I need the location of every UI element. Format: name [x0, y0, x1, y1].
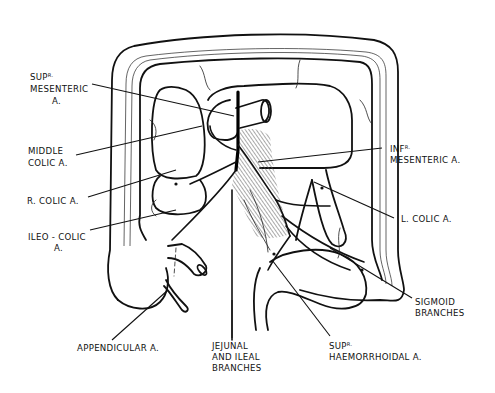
leader-sup-haemorrhoidal — [272, 260, 330, 336]
label-sigmoid: SIGMOID — [415, 297, 455, 307]
label-appendicular: APPENDICULAR A. — [77, 343, 159, 353]
leader-middle-colic — [76, 126, 202, 155]
label-sup-mesenteric: SUPR. — [30, 72, 54, 82]
colon-arterial-supply-diagram: SUPR. MESENTERIC A. MIDDLE COLIC A. R. C… — [0, 0, 495, 393]
label-l-colic: L. COLIC A. — [401, 214, 452, 224]
label-jejunal: JEJUNAL — [211, 341, 248, 351]
label-ileo-colic: ILEO - COLIC — [28, 232, 86, 242]
label-sigmoid-line2: BRANCHES — [415, 308, 465, 318]
labels: SUPR. MESENTERIC A. MIDDLE COLIC A. R. C… — [27, 72, 465, 373]
label-sup-mesenteric-line3: A. — [52, 96, 61, 106]
label-sup-haemorrhoidal-line2: HAEMORRHOIDAL A. — [329, 352, 422, 362]
label-r-colic: R. COLIC A. — [27, 196, 79, 206]
label-sup-mesenteric-line2: MESENTERIC — [30, 84, 88, 94]
leader-sigmoid — [330, 248, 412, 298]
label-ileo-colic-line2: A. — [54, 243, 63, 253]
leader-inf-mesenteric — [258, 148, 382, 162]
label-middle-colic-line2: COLIC A. — [28, 158, 68, 168]
label-inf-mesenteric: INFR. — [390, 144, 411, 154]
label-jejunal-line3: BRANCHES — [212, 363, 262, 373]
label-inf-mesenteric-line2: MESENTERIC A. — [390, 155, 460, 165]
leader-appendicular — [112, 290, 168, 340]
leader-r-colic — [88, 170, 176, 197]
superior-mesenteric-trunk — [236, 92, 238, 170]
label-jejunal-line2: AND ILEAL — [212, 352, 260, 362]
label-sup-haemorrhoidal: SUPR. — [329, 341, 353, 351]
mesentery-root-hatched — [232, 129, 290, 238]
label-middle-colic: MIDDLE — [28, 146, 63, 156]
left-colic-branch — [276, 200, 330, 206]
leader-l-colic — [314, 182, 394, 218]
leader-ileo-colic — [90, 210, 176, 230]
